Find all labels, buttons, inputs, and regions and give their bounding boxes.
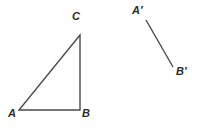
geometry-figure: A B C A′ B′	[0, 0, 198, 128]
vertex-label-a-prime: A′	[132, 5, 143, 16]
geometry-canvas	[0, 0, 198, 128]
segment-a-prime-b-prime	[146, 20, 173, 67]
vertex-label-a: A	[8, 108, 16, 119]
triangle-abc	[19, 35, 80, 110]
vertex-label-b-prime: B′	[176, 66, 187, 77]
vertex-label-c: C	[72, 11, 80, 22]
vertex-label-b: B	[82, 108, 90, 119]
